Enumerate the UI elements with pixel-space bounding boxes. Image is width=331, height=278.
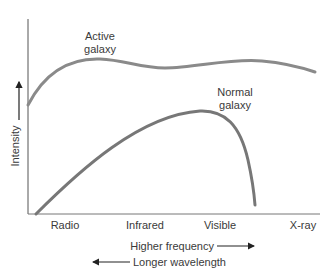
tick-xray: X-ray — [278, 219, 328, 232]
label-line: galaxy — [211, 99, 259, 112]
active-galaxy-curve — [28, 59, 315, 105]
tick-radio: Radio — [40, 219, 90, 232]
tick-infrared: Infrared — [115, 219, 175, 232]
frequency-label: Higher frequency — [124, 240, 214, 253]
label-line: galaxy — [75, 43, 125, 56]
y-axis-label: Intensity — [9, 121, 21, 171]
active-galaxy-label: Active galaxy — [75, 30, 125, 56]
tick-visible: Visible — [195, 219, 245, 232]
normal-galaxy-curve — [36, 111, 255, 214]
wavelength-label: Longer wavelength — [133, 256, 233, 269]
normal-galaxy-label: Normal galaxy — [211, 86, 259, 112]
label-line: Normal — [211, 86, 259, 99]
label-line: Active — [75, 30, 125, 43]
diagram-canvas — [0, 0, 331, 278]
